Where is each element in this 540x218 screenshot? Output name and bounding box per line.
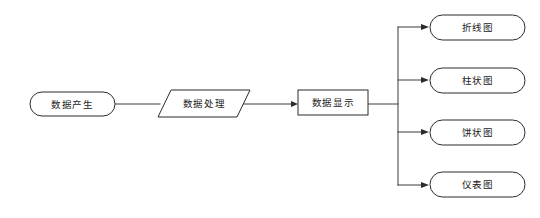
node-data-processing-label: 数据处理 <box>183 98 225 109</box>
node-pie-chart-label: 饼状图 <box>462 127 494 138</box>
connector-layer <box>115 24 429 188</box>
arrowhead-processing-display <box>291 101 298 107</box>
node-line-chart[interactable]: 折线图 <box>430 15 525 40</box>
arrowhead-gauge-chart <box>421 182 429 188</box>
arrowhead-bar-chart <box>421 77 429 83</box>
node-data-generation[interactable]: 数据产生 <box>30 92 115 116</box>
node-gauge-chart-label: 仪表图 <box>462 179 494 190</box>
flowchart-svg: 数据产生 数据处理 数据显示 折线图 柱状图 饼状图 <box>0 0 540 218</box>
node-data-display-label: 数据显示 <box>312 97 354 108</box>
arrowhead-line-chart <box>421 24 429 30</box>
arrowhead-pie-chart <box>421 129 429 135</box>
node-data-processing[interactable]: 数据处理 <box>158 90 250 117</box>
node-pie-chart[interactable]: 饼状图 <box>430 120 525 145</box>
node-bar-chart[interactable]: 柱状图 <box>430 68 525 93</box>
flowchart-canvas: 数据产生 数据处理 数据显示 折线图 柱状图 饼状图 <box>0 0 540 218</box>
node-gauge-chart[interactable]: 仪表图 <box>430 172 525 197</box>
node-bar-chart-label: 柱状图 <box>462 75 494 86</box>
node-line-chart-label: 折线图 <box>462 22 494 33</box>
node-data-display[interactable]: 数据显示 <box>298 90 368 115</box>
node-data-generation-label: 数据产生 <box>51 99 93 110</box>
